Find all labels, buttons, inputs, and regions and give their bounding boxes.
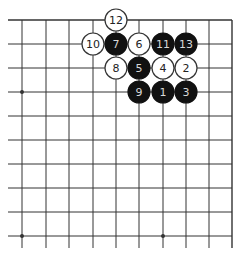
move-number: 2 [183,62,190,75]
move-number: 6 [136,38,143,51]
black-stone: 3 [175,81,197,103]
move-number: 8 [113,62,120,75]
move-number: 11 [156,38,170,51]
black-stone: 5 [128,57,150,79]
white-stone: 4 [152,57,174,79]
go-board: 12345678910111213 [0,0,239,255]
move-number: 9 [136,86,143,99]
white-stone: 12 [105,9,127,31]
star-point [161,234,165,238]
white-stone: 8 [105,57,127,79]
move-number: 12 [109,14,123,27]
move-number: 4 [160,62,167,75]
star-point [20,90,24,94]
black-stone: 9 [128,81,150,103]
move-number: 10 [86,38,100,51]
black-stone: 1 [152,81,174,103]
black-stone: 11 [152,33,174,55]
move-number: 3 [183,86,190,99]
black-stone: 13 [175,33,197,55]
move-number: 5 [136,62,143,75]
white-stone: 10 [82,33,104,55]
move-number: 13 [179,38,193,51]
black-stone: 7 [105,33,127,55]
white-stone: 2 [175,57,197,79]
star-point [20,234,24,238]
white-stone: 6 [128,33,150,55]
move-number: 1 [160,86,167,99]
move-number: 7 [113,38,120,51]
